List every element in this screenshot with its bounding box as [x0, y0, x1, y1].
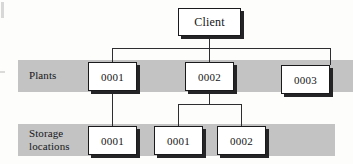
edge-client-to-plant-0001	[112, 48, 113, 62]
level-label-plants: Plants	[29, 69, 57, 82]
edge-client-bus	[112, 48, 331, 49]
node-storage-0001-a[interactable]: 0001	[88, 126, 137, 155]
edge-plant-0002-to-storage-0002	[241, 104, 242, 126]
edge-client-to-plant-0002	[209, 48, 210, 62]
node-storage-0002-label: 0002	[230, 135, 253, 147]
node-plant-0001-label: 0001	[101, 71, 124, 83]
node-plant-0002[interactable]: 0002	[185, 62, 234, 91]
diagram-canvas: Plants Storage locations Client 0001 000…	[0, 0, 353, 164]
node-storage-0001-b-label: 0001	[167, 135, 190, 147]
node-plant-0002-label: 0002	[198, 71, 221, 83]
edge-plant-0002-bus	[178, 104, 242, 105]
edge-plant-0002-stub	[209, 91, 210, 104]
scan-artifact-mid	[0, 71, 5, 73]
node-plant-0001[interactable]: 0001	[88, 62, 137, 91]
edge-client-to-plant-0003	[330, 48, 331, 65]
edge-plant-0002-to-storage-0001	[178, 104, 179, 126]
scan-artifact-top	[1, 2, 4, 18]
node-plant-0003-label: 0003	[294, 74, 317, 86]
node-storage-0002[interactable]: 0002	[217, 126, 266, 155]
node-plant-0003[interactable]: 0003	[281, 65, 330, 94]
edge-plant-0001-to-storage	[112, 91, 113, 126]
node-storage-0001-b[interactable]: 0001	[154, 126, 203, 155]
node-storage-0001-a-label: 0001	[101, 135, 124, 147]
node-client[interactable]: Client	[178, 8, 241, 36]
level-label-storage: Storage locations	[29, 127, 70, 152]
node-client-label: Client	[194, 15, 225, 30]
